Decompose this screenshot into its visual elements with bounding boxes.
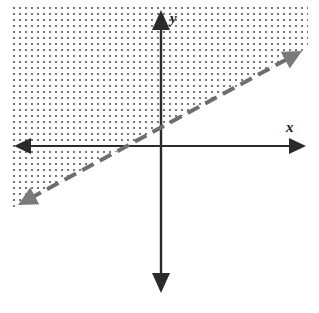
x-axis-label: x (286, 120, 294, 135)
x-axis-right-arrowhead (289, 138, 306, 154)
y-axis-label: y (170, 11, 177, 26)
inequality-graph-figure: y x (0, 0, 319, 313)
graph-canvas (0, 0, 319, 313)
shaded-half-plane-region (0, 0, 319, 313)
y-axis-bottom-arrowhead (152, 273, 170, 293)
